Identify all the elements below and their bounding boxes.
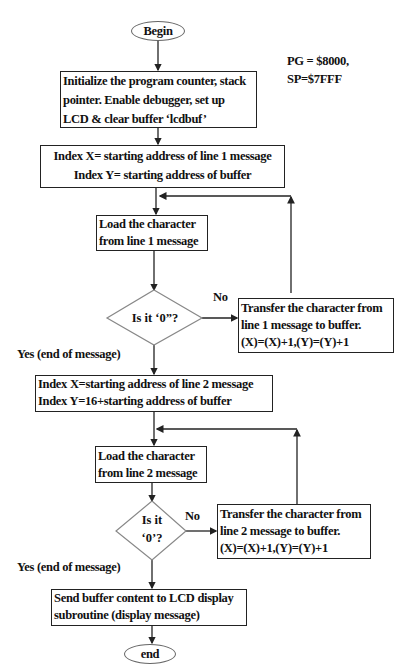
decision2-line-2: ‘0’? xyxy=(122,529,182,547)
init-line-1: Initialize the program counter, stack xyxy=(63,72,254,91)
load2-process-box: Load the character from line 2 message xyxy=(95,446,207,483)
sp-value: SP=$7FFF xyxy=(287,70,349,88)
index1-line-2: Index Y= starting address of buffer xyxy=(43,166,282,185)
index1-line-1: Index X= starting address of line 1 mess… xyxy=(43,147,282,166)
index2-line-2: Index Y=16+starting address of buffer xyxy=(38,393,270,410)
init-line-2: pointer. Enable debugger, set up xyxy=(63,91,254,110)
register-annotation: PG = $8000, SP=$7FFF xyxy=(287,52,349,88)
transfer2-line-2: line 2 message to buffer. xyxy=(220,523,368,540)
decision1-text: Is it ‘0”? xyxy=(110,309,200,328)
transfer2-process-box: Transfer the character from line 2 messa… xyxy=(217,504,371,559)
transfer2-line-3: (X)=(X)+1,(Y)=(Y)+1 xyxy=(220,540,368,557)
end-label: end xyxy=(141,647,160,661)
init-line-3: LCD & clear buffer ‘lcdbuf’ xyxy=(63,110,254,129)
decision2-text: Is it ‘0’? xyxy=(122,511,182,547)
end-terminal: end xyxy=(124,644,176,664)
transfer1-line-2: line 1 message to buffer. xyxy=(241,317,391,334)
send-line-1: Send buffer content to LCD display xyxy=(54,590,244,607)
init-process-box: Initialize the program counter, stack po… xyxy=(60,71,257,128)
index2-process-box: Index X=starting address of line 2 messa… xyxy=(35,375,273,412)
no-label-1: No xyxy=(213,290,228,305)
load1-line-1: Load the character xyxy=(99,216,205,233)
decision1-label: Is it ‘0”? xyxy=(132,311,179,325)
yes-label-2: Yes (end of message) xyxy=(17,560,120,575)
send-process-box: Send buffer content to LCD display subro… xyxy=(51,589,247,626)
pg-value: PG = $8000, xyxy=(287,52,349,70)
yes-label-1: Yes (end of message) xyxy=(17,347,120,362)
index2-line-1: Index X=starting address of line 2 messa… xyxy=(38,376,270,393)
transfer1-line-1: Transfer the character from xyxy=(241,300,391,317)
index1-process-box: Index X= starting address of line 1 mess… xyxy=(40,145,285,188)
send-line-2: subroutine (display message) xyxy=(54,607,244,624)
load2-line-2: from line 2 message xyxy=(98,465,204,482)
load1-process-box: Load the character from line 1 message xyxy=(96,215,208,251)
transfer1-process-box: Transfer the character from line 1 messa… xyxy=(238,298,394,353)
transfer2-line-1: Transfer the character from xyxy=(220,506,368,523)
transfer1-line-3: (X)=(X)+1,(Y)=(Y)+1 xyxy=(241,334,391,351)
begin-terminal: Begin xyxy=(131,21,185,41)
begin-label: Begin xyxy=(143,24,172,38)
no-label-2: No xyxy=(185,509,200,524)
load1-line-2: from line 1 message xyxy=(99,233,205,250)
decision2-line-1: Is it xyxy=(122,511,182,529)
load2-line-1: Load the character xyxy=(98,448,204,465)
